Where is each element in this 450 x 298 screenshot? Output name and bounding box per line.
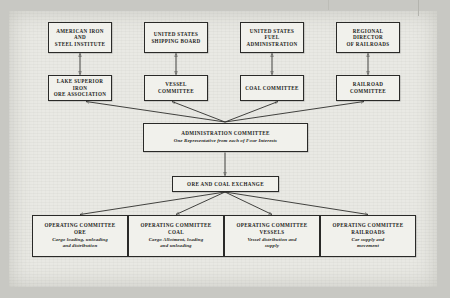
agency-us-shipping-board[interactable]: UNITED STATES SHIPPING BOARD bbox=[144, 22, 208, 53]
operating-committee-coal[interactable]: OPERATING COMMITTEE COAL Cargo Allotment… bbox=[128, 215, 224, 257]
agency-american-iron-steel[interactable]: AMERICAN IRON AND STEEL INSTITUTE bbox=[48, 22, 112, 53]
committee-vessel[interactable]: VESSEL COMMITTEE bbox=[144, 75, 208, 101]
operating-committee-title: OPERATING COMMITTEE bbox=[140, 222, 211, 229]
administration-committee-title: ADMINISTRATION COMMITTEE bbox=[181, 130, 270, 137]
agency-label: AMERICAN IRON AND STEEL INSTITUTE bbox=[51, 28, 109, 48]
operating-committee-kind: ORE bbox=[74, 229, 86, 236]
agency-label: UNITED STATES SHIPPING BOARD bbox=[151, 31, 200, 44]
operating-committee-duties: Cargo Allotment, loading and unloading bbox=[149, 237, 204, 249]
agency-us-fuel-administration[interactable]: UNITED STATES FUEL ADMINISTRATION bbox=[240, 22, 304, 53]
operating-committee-kind: VESSELS bbox=[260, 229, 285, 236]
page-edge-mark bbox=[328, 0, 329, 10]
agency-label: REGIONAL DIRECTOR OF RAILROADS bbox=[339, 28, 397, 48]
agency-regional-director-railroads[interactable]: REGIONAL DIRECTOR OF RAILROADS bbox=[336, 22, 400, 53]
operating-committee-kind: COAL bbox=[168, 229, 184, 236]
agency-label: UNITED STATES FUEL ADMINISTRATION bbox=[243, 28, 301, 48]
committee-label: RAILROAD COMMITTEE bbox=[350, 81, 386, 94]
operating-committee-kind: RAILROADS bbox=[351, 229, 385, 236]
committee-lake-superior-iron-ore[interactable]: LAKE SUPERIOR IRON ORE ASSOCIATION bbox=[48, 75, 112, 101]
org-chart-page: AMERICAN IRON AND STEEL INSTITUTE UNITED… bbox=[0, 0, 450, 298]
committee-label: LAKE SUPERIOR IRON ORE ASSOCIATION bbox=[51, 78, 109, 98]
operating-committee-railroads[interactable]: OPERATING COMMITTEE RAILROADS Car supply… bbox=[320, 215, 416, 257]
ore-and-coal-exchange[interactable]: ORE AND COAL EXCHANGE bbox=[172, 176, 279, 192]
operating-committee-duties: Vessel distribution and supply bbox=[247, 237, 296, 249]
operating-committee-title: OPERATING COMMITTEE bbox=[236, 222, 307, 229]
committee-railroad[interactable]: RAILROAD COMMITTEE bbox=[336, 75, 400, 101]
administration-committee-subtitle: One Representative from each of Four Int… bbox=[174, 138, 277, 144]
committee-coal[interactable]: COAL COMMITTEE bbox=[240, 75, 304, 101]
ore-and-coal-exchange-title: ORE AND COAL EXCHANGE bbox=[187, 181, 264, 188]
page-edge-line bbox=[418, 0, 419, 16]
committee-label: VESSEL COMMITTEE bbox=[147, 81, 205, 94]
administration-committee[interactable]: ADMINISTRATION COMMITTEE One Representat… bbox=[143, 123, 308, 152]
operating-committee-duties: Car supply and movement bbox=[352, 237, 385, 249]
committee-label: COAL COMMITTEE bbox=[245, 85, 298, 92]
operating-committee-vessels[interactable]: OPERATING COMMITTEE VESSELS Vessel distr… bbox=[224, 215, 320, 257]
operating-committee-ore[interactable]: OPERATING COMMITTEE ORE Cargo loading, u… bbox=[32, 215, 128, 257]
operating-committee-title: OPERATING COMMITTEE bbox=[44, 222, 115, 229]
operating-committee-title: OPERATING COMMITTEE bbox=[332, 222, 403, 229]
operating-committee-duties: Cargo loading, unloading and distributio… bbox=[52, 237, 108, 249]
